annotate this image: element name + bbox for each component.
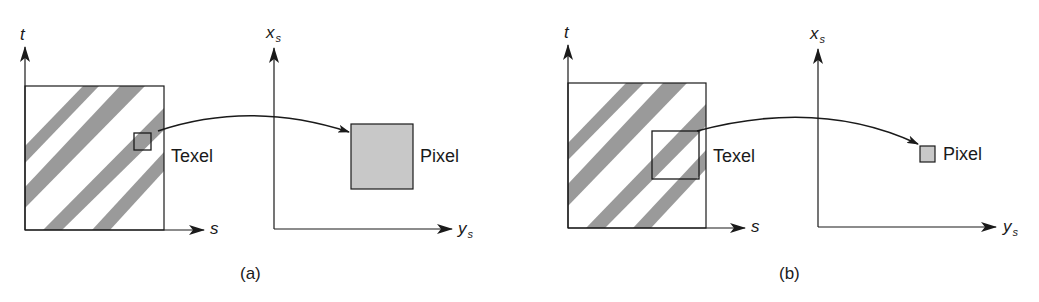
xs-axis-label: xs bbox=[810, 25, 825, 45]
texture-box bbox=[25, 86, 164, 230]
texel-label: Texel bbox=[713, 147, 755, 165]
panel-b-texture-space bbox=[568, 45, 745, 228]
texel-label: Texel bbox=[171, 147, 213, 165]
t-axis-label: t bbox=[20, 26, 25, 43]
xs-axis-label-sub: s bbox=[276, 32, 282, 44]
caption-b: (b) bbox=[779, 265, 800, 282]
pixel-square bbox=[920, 146, 935, 162]
panel-b-screen-space bbox=[818, 49, 996, 227]
s-axis-label: s bbox=[210, 220, 219, 237]
ys-axis-label-sub: s bbox=[468, 228, 474, 240]
caption-a: (a) bbox=[240, 265, 261, 282]
pixel-square bbox=[351, 124, 413, 189]
xs-axis-label: xs bbox=[266, 24, 281, 44]
xs-axis-label-main: x bbox=[266, 23, 275, 42]
ys-axis-label: ys bbox=[458, 220, 473, 240]
pixel-label: Pixel bbox=[420, 147, 459, 165]
ys-axis-label-main: y bbox=[1003, 217, 1012, 236]
panel-a-texture-space bbox=[25, 47, 204, 230]
mapping-arrow-b bbox=[697, 117, 918, 144]
pixel-label: Pixel bbox=[943, 145, 982, 163]
ys-axis-label: ys bbox=[1003, 218, 1018, 238]
texture-mapping-diagram bbox=[0, 0, 1039, 302]
xs-axis-label-main: x bbox=[810, 24, 819, 43]
texture-box bbox=[568, 83, 706, 228]
s-axis-label: s bbox=[751, 218, 760, 235]
xs-axis-label-sub: s bbox=[820, 33, 826, 45]
panel-a-screen-space bbox=[274, 48, 452, 229]
ys-axis-label-sub: s bbox=[1013, 226, 1019, 238]
t-axis-label: t bbox=[564, 24, 569, 41]
mapping-arrow-a bbox=[158, 116, 349, 132]
diagonal-stripes bbox=[568, 83, 706, 228]
diagonal-stripes bbox=[25, 86, 164, 230]
ys-axis-label-main: y bbox=[458, 219, 467, 238]
